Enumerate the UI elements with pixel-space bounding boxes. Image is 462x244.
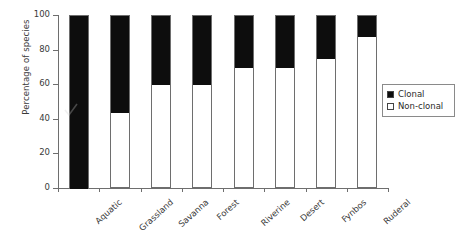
x-axis-label-text: Grassland <box>137 197 175 233</box>
x-axis-label-fynbos: Fynbos <box>340 197 369 224</box>
bar-fynbos <box>316 15 336 188</box>
bar-segment-clonal-savanna <box>152 16 170 85</box>
y-tick-label-60: 60 <box>39 78 50 88</box>
bar-savanna <box>151 15 171 188</box>
x-axis-label-text: Desert <box>298 197 326 223</box>
y-tick-40: 40 <box>53 119 58 120</box>
x-axis-label-ruderal: Ruderal <box>382 197 413 226</box>
y-tick-label-0: 0 <box>45 182 50 192</box>
legend-item-clonal: Clonal <box>387 88 450 100</box>
x-axis-label-text: Fynbos <box>340 197 369 224</box>
y-axis-title: Percentage of species <box>21 0 31 137</box>
bar-segment-clonal-forest <box>193 16 211 85</box>
bar-segment-clonal-desert <box>276 16 294 68</box>
x-tick-8 <box>388 188 389 192</box>
bar-segment-clonal-grassland <box>111 16 129 113</box>
y-tick-60: 60 <box>53 84 58 85</box>
bar-segment-clonal-fynbos <box>317 16 335 59</box>
bar-aquatic <box>69 15 89 188</box>
x-tick-2 <box>141 188 142 192</box>
x-axis-label-riverine: Riverine <box>259 197 292 228</box>
bar-segment-clonal-riverine <box>235 16 253 68</box>
y-tick-label-20: 20 <box>39 147 50 157</box>
x-tick-3 <box>182 188 183 192</box>
x-axis-label-text: Aquatic <box>93 197 123 226</box>
x-tick-4 <box>223 188 224 192</box>
x-axis-label-aquatic: Aquatic <box>93 197 123 226</box>
x-tick-1 <box>99 188 100 192</box>
chart-figure: Percentage of species 0 20 40 60 80 100 … <box>0 0 462 244</box>
legend-label-clonal: Clonal <box>398 89 424 99</box>
x-axis-label-text: Ruderal <box>382 197 413 226</box>
bar-desert <box>275 15 295 188</box>
y-tick-label-80: 80 <box>39 44 50 54</box>
x-axis-label-savanna: Savanna <box>177 197 211 229</box>
x-axis-label-desert: Desert <box>298 197 326 223</box>
legend-item-non-clonal: Non-clonal <box>387 100 450 112</box>
x-tick-0 <box>58 188 59 192</box>
legend: Clonal Non-clonal <box>382 84 455 117</box>
bar-grassland <box>110 15 130 188</box>
y-tick-100: 100 <box>53 15 58 16</box>
y-tick-20: 20 <box>53 153 58 154</box>
bar-ruderal <box>357 15 377 188</box>
y-tick-80: 80 <box>53 50 58 51</box>
bar-segment-clonal-aquatic <box>70 16 88 189</box>
bar-riverine <box>234 15 254 188</box>
x-axis-label-grassland: Grassland <box>137 197 175 233</box>
legend-swatch-non-clonal-icon <box>387 103 394 110</box>
bar-segment-clonal-ruderal <box>358 16 376 37</box>
x-axis-label-text: Forest <box>215 197 241 222</box>
legend-label-non-clonal: Non-clonal <box>398 101 443 111</box>
x-axis-label-text: Savanna <box>177 197 211 229</box>
y-tick-label-40: 40 <box>39 113 50 123</box>
x-axis-label-forest: Forest <box>215 197 241 222</box>
x-tick-5 <box>264 188 265 192</box>
x-tick-7 <box>347 188 348 192</box>
y-tick-label-100: 100 <box>34 9 50 19</box>
x-tick-6 <box>306 188 307 192</box>
x-axis-label-text: Riverine <box>259 197 292 228</box>
plot-area: 0 20 40 60 80 100 AquaticGrasslandSavann… <box>58 15 388 188</box>
bar-forest <box>192 15 212 188</box>
y-axis-line <box>58 15 59 188</box>
legend-swatch-clonal-icon <box>387 91 394 98</box>
